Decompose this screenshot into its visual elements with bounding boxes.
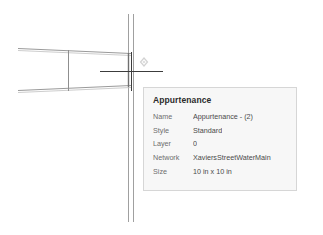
application-screen: Appurtenance Name Appurtenance - (2) Sty… bbox=[0, 0, 323, 235]
tooltip-title: Appurtenance bbox=[153, 95, 288, 105]
property-row-layer: Layer 0 bbox=[153, 138, 288, 150]
snap-marker-diamond bbox=[141, 58, 148, 66]
property-row-style: Style Standard bbox=[153, 125, 288, 137]
property-row-name: Name Appurtenance - (2) bbox=[153, 111, 288, 123]
horizontal-pipe[interactable] bbox=[18, 49, 131, 93]
appurtenance-tooltip-panel: Appurtenance Name Appurtenance - (2) Sty… bbox=[143, 87, 297, 191]
property-label-network: Network bbox=[153, 152, 193, 164]
property-row-network: Network XaviersStreetWaterMain bbox=[153, 152, 288, 164]
property-label-name: Name bbox=[153, 111, 193, 123]
property-label-size: Size bbox=[153, 166, 193, 178]
property-value-network: XaviersStreetWaterMain bbox=[193, 152, 271, 164]
vertical-pipe[interactable] bbox=[129, 14, 134, 222]
property-value-layer: 0 bbox=[193, 138, 197, 150]
property-value-name: Appurtenance - (2) bbox=[193, 111, 253, 123]
cursor-crosshair bbox=[100, 52, 163, 91]
property-row-size: Size 10 in x 10 in bbox=[153, 166, 288, 178]
property-value-style: Standard bbox=[193, 125, 222, 137]
property-label-layer: Layer bbox=[153, 138, 193, 150]
property-label-style: Style bbox=[153, 125, 193, 137]
property-value-size: 10 in x 10 in bbox=[193, 166, 232, 178]
